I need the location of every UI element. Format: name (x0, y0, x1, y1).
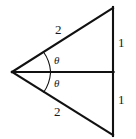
angle-label-lower: θ (54, 78, 59, 89)
lower-angle-arc-icon (44, 73, 51, 93)
triangle-diagram-svg (0, 0, 136, 139)
side-length-label-lower: 2 (54, 105, 61, 118)
height-label-upper: 1 (118, 36, 125, 49)
angle-label-upper: θ (54, 55, 59, 66)
upper-angle-arc-icon (44, 52, 51, 71)
lower-hypotenuse-line (12, 72, 113, 135)
upper-hypotenuse-line (12, 8, 113, 72)
geometry-figure: 2 2 1 1 θ θ (0, 0, 136, 139)
height-label-lower: 1 (118, 93, 125, 106)
side-length-label-upper: 2 (55, 23, 62, 36)
